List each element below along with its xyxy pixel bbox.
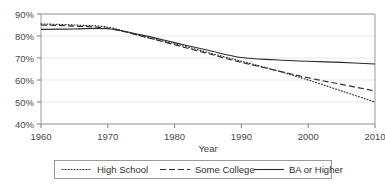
legend-label-ba-or-higher: BA or Higher [289, 164, 343, 175]
y-tick-label: 40% [15, 119, 35, 130]
x-tick-label: 1980 [164, 131, 185, 142]
gridlines [41, 14, 375, 124]
x-axis-title: Year [198, 143, 217, 154]
y-axis-ticks [37, 14, 41, 124]
legend-entries: High SchoolSome CollegeBA or Higher [62, 164, 343, 175]
x-tick-label: 2010 [364, 131, 385, 142]
y-axis-tick-labels: 40%50%60%70%80%90% [15, 9, 35, 130]
x-axis-tick-labels: 196019701980199020002010 [30, 131, 385, 142]
y-tick-label: 50% [15, 97, 35, 108]
y-tick-label: 80% [15, 31, 35, 42]
legend-label-some-college: Some College [195, 164, 255, 175]
x-tick-label: 1990 [231, 131, 252, 142]
x-tick-label: 1960 [30, 131, 51, 142]
y-tick-label: 60% [15, 75, 35, 86]
x-tick-label: 2000 [298, 131, 319, 142]
line-chart: 40%50%60%70%80%90% 196019701980199020002… [0, 0, 385, 187]
x-axis-ticks [41, 124, 375, 128]
x-tick-label: 1970 [97, 131, 118, 142]
chart-canvas: 40%50%60%70%80%90% 196019701980199020002… [0, 0, 385, 187]
chart-legend: High SchoolSome CollegeBA or Higher [55, 161, 343, 179]
series-line-ba-or-higher [41, 28, 375, 64]
legend-label-high-school: High School [97, 164, 148, 175]
plot-frame [41, 14, 375, 124]
y-tick-label: 70% [15, 53, 35, 64]
y-tick-label: 90% [15, 9, 35, 20]
